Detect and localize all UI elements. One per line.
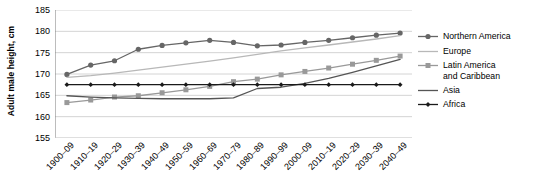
data-point bbox=[350, 62, 355, 67]
legend-marker-icon bbox=[418, 60, 438, 71]
legend-label: Northern America bbox=[443, 31, 511, 42]
legend-point bbox=[426, 63, 431, 68]
legend-marker-icon bbox=[418, 85, 438, 96]
data-point bbox=[136, 93, 141, 98]
data-point bbox=[302, 40, 307, 45]
data-point bbox=[231, 40, 236, 45]
series-4 bbox=[65, 82, 403, 87]
data-point bbox=[255, 77, 260, 82]
data-point bbox=[160, 90, 165, 95]
data-point bbox=[350, 82, 355, 87]
data-point bbox=[160, 82, 165, 87]
legend-item[interactable]: Asia bbox=[418, 85, 537, 96]
data-point bbox=[207, 38, 212, 43]
data-point bbox=[374, 82, 379, 87]
data-point bbox=[279, 42, 284, 47]
data-point bbox=[65, 82, 70, 87]
data-point bbox=[64, 100, 69, 105]
y-axis-tick-label: 180 bbox=[20, 26, 50, 36]
data-point bbox=[398, 54, 403, 59]
data-point bbox=[398, 30, 403, 35]
data-point bbox=[255, 43, 260, 48]
data-point bbox=[184, 82, 189, 87]
legend-item[interactable]: Northern America bbox=[418, 31, 537, 42]
legend-label: Latin America and Caribbean bbox=[443, 60, 500, 81]
legend-marker-icon bbox=[418, 99, 438, 110]
plot-area bbox=[55, 10, 412, 138]
y-axis-tick-labels: 155160165170175180185 bbox=[20, 10, 50, 138]
y-axis-tick-label: 185 bbox=[20, 5, 50, 15]
y-axis-tick-label: 160 bbox=[20, 112, 50, 122]
data-point bbox=[398, 82, 403, 87]
legend-marker-icon bbox=[418, 31, 438, 42]
plot-svg bbox=[55, 10, 412, 138]
data-point bbox=[136, 47, 141, 52]
legend-label: Europe bbox=[443, 46, 471, 57]
data-point bbox=[183, 40, 188, 45]
data-point bbox=[136, 82, 141, 87]
y-axis-tick-label: 155 bbox=[20, 133, 50, 143]
series-0 bbox=[64, 30, 402, 77]
data-point bbox=[88, 98, 93, 103]
chart-legend: Northern AmericaEuropeLatin America and … bbox=[418, 31, 537, 114]
legend-point bbox=[426, 102, 431, 107]
data-point bbox=[255, 82, 260, 87]
chart-container: Adult male height, cm 155160165170175180… bbox=[0, 0, 537, 196]
data-point bbox=[112, 82, 117, 87]
legend-label: Africa bbox=[443, 99, 465, 110]
data-point bbox=[350, 35, 355, 40]
legend-item[interactable]: Latin America and Caribbean bbox=[418, 60, 537, 81]
y-axis-tick-label: 165 bbox=[20, 90, 50, 100]
data-point bbox=[88, 62, 93, 67]
series-line bbox=[67, 33, 400, 74]
x-axis-tick-labels: 1900–091910–191920–291930–391940–491950–… bbox=[55, 138, 412, 196]
data-point bbox=[112, 95, 117, 100]
legend-label: Asia bbox=[443, 85, 460, 96]
legend-item[interactable]: Europe bbox=[418, 46, 537, 57]
data-point bbox=[326, 82, 331, 87]
y-axis-title: Adult male height, cm bbox=[6, 6, 16, 136]
data-point bbox=[302, 69, 307, 74]
legend-point bbox=[425, 34, 430, 39]
data-point bbox=[374, 33, 379, 38]
legend-marker-icon bbox=[418, 46, 438, 57]
data-point bbox=[112, 58, 117, 63]
data-point bbox=[64, 72, 69, 77]
data-point bbox=[88, 82, 93, 87]
data-point bbox=[160, 43, 165, 48]
data-point bbox=[374, 58, 379, 63]
data-point bbox=[279, 72, 284, 77]
y-axis-tick-label: 175 bbox=[20, 48, 50, 58]
y-axis-tick-label: 170 bbox=[20, 69, 50, 79]
data-point bbox=[326, 38, 331, 43]
legend-item[interactable]: Africa bbox=[418, 99, 537, 110]
data-point bbox=[183, 87, 188, 92]
data-point bbox=[326, 66, 331, 71]
